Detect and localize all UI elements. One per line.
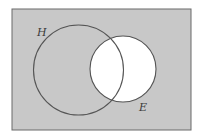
venn-diagram: H E — [0, 0, 199, 137]
set-e-label: E — [138, 101, 147, 114]
set-h-label: H — [36, 26, 47, 39]
